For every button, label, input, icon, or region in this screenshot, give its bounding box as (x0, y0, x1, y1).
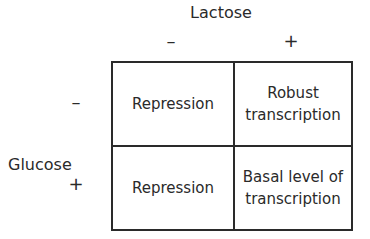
column-sign-minus: – (151, 30, 191, 51)
cell-glucose-minus-lactose-minus: Repression (113, 63, 233, 145)
cell-glucose-minus-lactose-plus: Robust transcription (235, 63, 351, 145)
row-header-title: Glucose (8, 155, 72, 174)
column-sign-plus: + (271, 30, 311, 51)
row-sign-minus: – (56, 91, 96, 112)
cell-glucose-plus-lactose-plus: Basal level of transcription (235, 147, 351, 229)
column-header-title: Lactose (171, 3, 271, 22)
row-sign-plus: + (56, 173, 96, 194)
cell-glucose-plus-lactose-minus: Repression (113, 147, 233, 229)
regulation-grid: Repression Robust transcription Repressi… (111, 61, 353, 231)
